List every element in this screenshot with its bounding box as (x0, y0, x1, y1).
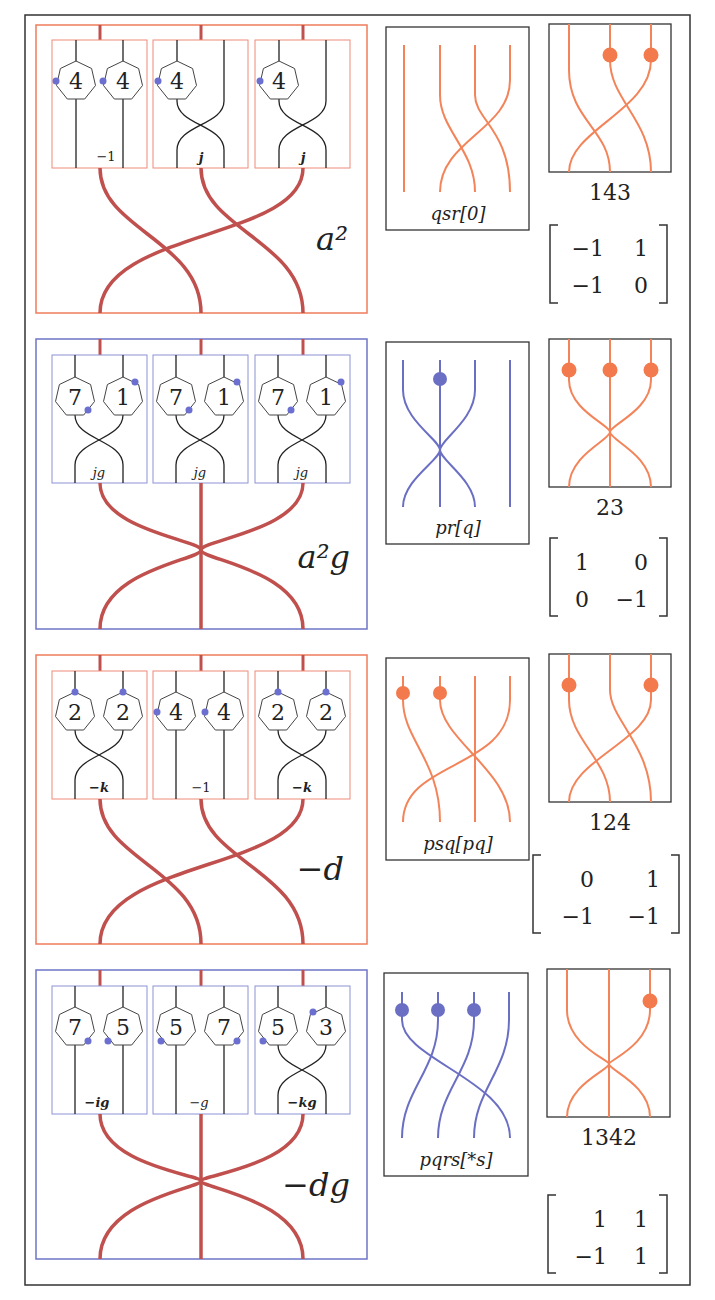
node-label: 5 (116, 1015, 130, 1040)
matrix-entry: 0 (634, 273, 648, 298)
node-label: 7 (217, 1015, 231, 1040)
row-3 (36, 654, 679, 944)
node-label: 1 (319, 385, 333, 410)
matrix-entry: 0 (580, 867, 594, 892)
node-label: 4 (69, 69, 83, 94)
row-2 (36, 339, 671, 629)
node-label: 3 (319, 1015, 333, 1040)
coefficient-label: −g (189, 1095, 208, 1110)
coefficient-label: j (196, 150, 204, 165)
node-label: 5 (271, 1015, 285, 1040)
node-label: 2 (319, 700, 333, 725)
braid-label: qsr[0] (431, 203, 487, 224)
braid-box-1 (386, 27, 529, 230)
coefficient-label: jg (90, 465, 105, 480)
matrix-entry: −1 (562, 904, 594, 929)
node-label: 7 (271, 385, 285, 410)
matrix-entry: 1 (634, 1244, 648, 1269)
node-label: 7 (68, 1015, 82, 1040)
node-label: 5 (169, 1015, 183, 1040)
braid-box-2 (386, 342, 529, 544)
node-label: 7 (169, 385, 183, 410)
matrix-entry: −1 (575, 1244, 607, 1269)
coefficient-label: −k (89, 780, 109, 795)
node-label: 4 (170, 69, 184, 94)
node-label: 4 (116, 69, 130, 94)
node-label: 1 (116, 385, 130, 410)
perm-box-2 (549, 339, 671, 487)
matrix-entry: 1 (646, 867, 660, 892)
permutation-label: 143 (589, 180, 631, 205)
braid-diagram-figure: 4 4 4 4 7 1 7 1 7 1 2 2 4 4 2 2 7 5 5 7 … (0, 0, 715, 1300)
node-label: 2 (116, 700, 130, 725)
group-label: −d (297, 850, 344, 888)
braid-label: pr[q] (435, 517, 482, 538)
matrix-entry: −1 (628, 904, 660, 929)
braid-box-3 (386, 658, 529, 860)
outer-frame (25, 15, 690, 1285)
matrix-entry: −1 (572, 273, 604, 298)
node-label: 4 (217, 700, 231, 725)
matrix-entry: 1 (634, 236, 648, 261)
group-panel-a2 (36, 25, 367, 313)
matrix-entry: 1 (593, 1207, 607, 1232)
group-label: a² (316, 220, 348, 258)
coefficient-label: −1 (96, 149, 115, 164)
permutation-label: 23 (596, 495, 624, 520)
braid-label: psq[pq] (423, 833, 493, 854)
matrix-entry: 0 (575, 587, 589, 612)
permutation-label: 1342 (581, 1125, 637, 1150)
matrix-entry: 1 (634, 1207, 648, 1232)
node-label: 7 (68, 385, 82, 410)
coefficient-label: −ig (85, 1095, 110, 1110)
row-1 (36, 24, 676, 313)
perm-box-1 (549, 24, 671, 172)
matrix-entry: −1 (572, 236, 604, 261)
matrix-entry: 0 (634, 550, 648, 575)
matrix-entry: 1 (575, 550, 589, 575)
node-label: 1 (217, 385, 231, 410)
coefficient-label: −1 (191, 780, 210, 795)
node-label: 2 (271, 700, 285, 725)
group-panel-minus-d (36, 655, 367, 944)
coefficient-label: −k (292, 780, 312, 795)
coefficient-label: −kg (288, 1095, 317, 1110)
braid-box-4 (384, 973, 528, 1176)
perm-box-4 (547, 969, 670, 1117)
node-label: 4 (272, 69, 286, 94)
group-panel-minus-dg (36, 970, 367, 1259)
permutation-label: 124 (589, 810, 631, 835)
coefficient-label: j (298, 150, 306, 165)
group-panel-a2g (36, 339, 367, 629)
braid-label: pqrs[*s] (419, 1149, 493, 1170)
coefficient-label: jg (293, 465, 308, 480)
group-label: −dg (282, 1166, 350, 1204)
group-label: a²g (298, 538, 350, 576)
perm-box-3 (549, 654, 671, 802)
node-label: 4 (169, 700, 183, 725)
row-4 (36, 969, 670, 1273)
node-label: 2 (68, 700, 82, 725)
coefficient-label: jg (191, 465, 206, 480)
matrix-entry: −1 (616, 587, 648, 612)
